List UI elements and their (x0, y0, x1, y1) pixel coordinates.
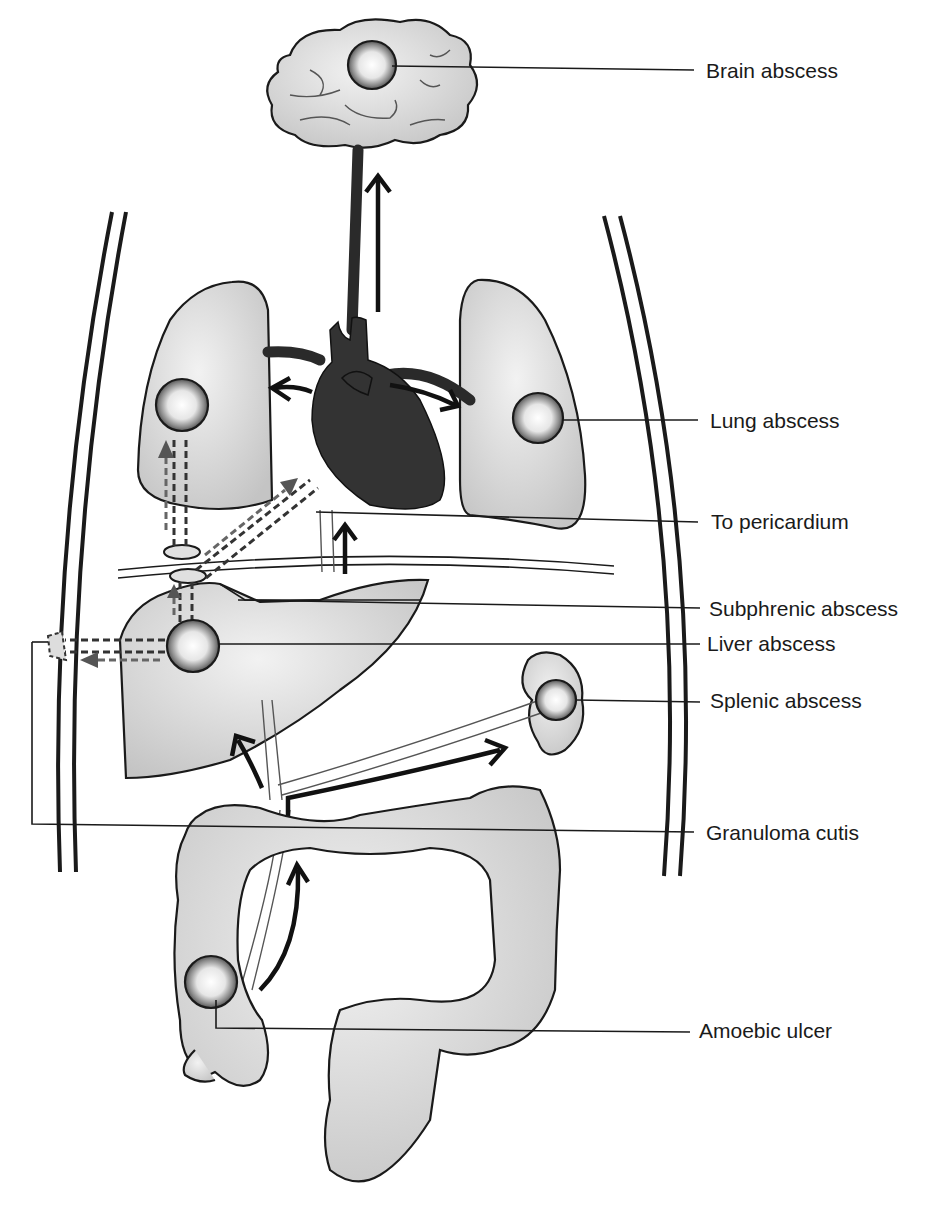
label-subphrenic-abscess: Subphrenic abscess (709, 598, 898, 619)
label-lung-abscess: Lung abscess (710, 410, 840, 431)
lung-abscess-left (156, 379, 208, 431)
liver (120, 580, 428, 778)
liver-abscess-nodule (167, 620, 219, 672)
amoebic-ulcer-nodule (185, 956, 237, 1008)
label-liver-abscess: Liver abscess (707, 633, 835, 654)
splenic-abscess-nodule (536, 680, 576, 720)
label-to-pericardium: To pericardium (711, 511, 849, 532)
label-granuloma-cutis: Granuloma cutis (706, 822, 859, 843)
body-wall-left (58, 212, 126, 872)
body-wall-right (604, 216, 686, 876)
brain-arrow (366, 176, 390, 312)
heart (268, 317, 470, 509)
label-amoebic-ulcer: Amoebic ulcer (699, 1020, 832, 1041)
brain-abscess-nodule (348, 41, 396, 89)
brain-stem-vessel (352, 150, 358, 330)
lung-abscess-right (513, 393, 563, 443)
leader-lines (32, 66, 700, 1032)
label-brain-abscess: Brain abscess (706, 60, 838, 81)
label-splenic-abscess: Splenic abscess (710, 690, 862, 711)
